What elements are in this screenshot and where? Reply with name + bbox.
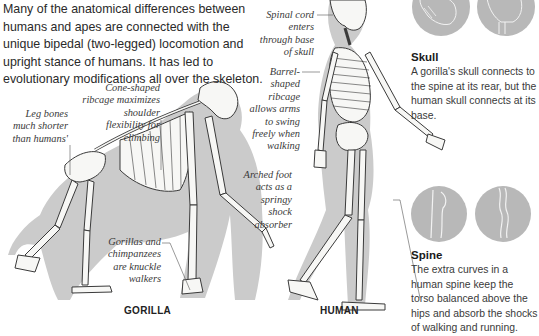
caption-human: HUMAN: [320, 305, 359, 316]
label-barrel-ribcage: Barrel-shaped ribcage allows arms to swi…: [246, 66, 300, 153]
label-knuckle-walkers: Gorillas and chimpanzees are knuckle wal…: [105, 236, 161, 286]
human-spine-disc: [475, 186, 531, 242]
gorilla-spine-disc: [411, 186, 467, 242]
label-cone-ribcage: Cone-shaped ribcage maximizes shoulder f…: [82, 82, 160, 144]
spine-panel-text: The extra curves in a human spine keep t…: [411, 263, 539, 336]
skull-panel-text: A gorilla's skull connects to the spine …: [411, 65, 539, 123]
caption-gorilla: GORILLA: [124, 305, 171, 316]
intro-text: Many of the anatomical differences betwe…: [3, 1, 268, 89]
spine-panel-title: Spine: [411, 249, 442, 261]
skull-panel-title: Skull: [411, 51, 438, 63]
label-arched-foot: Arched foot acts as a springy shock abso…: [236, 169, 292, 231]
label-spinal-cord: Spinal cord enters through base of skull: [255, 9, 314, 59]
label-leg-bones: Leg bones much shorter than humans': [10, 108, 68, 145]
gorilla-spine-icon: [411, 186, 467, 242]
human-spine-icon: [475, 186, 531, 242]
